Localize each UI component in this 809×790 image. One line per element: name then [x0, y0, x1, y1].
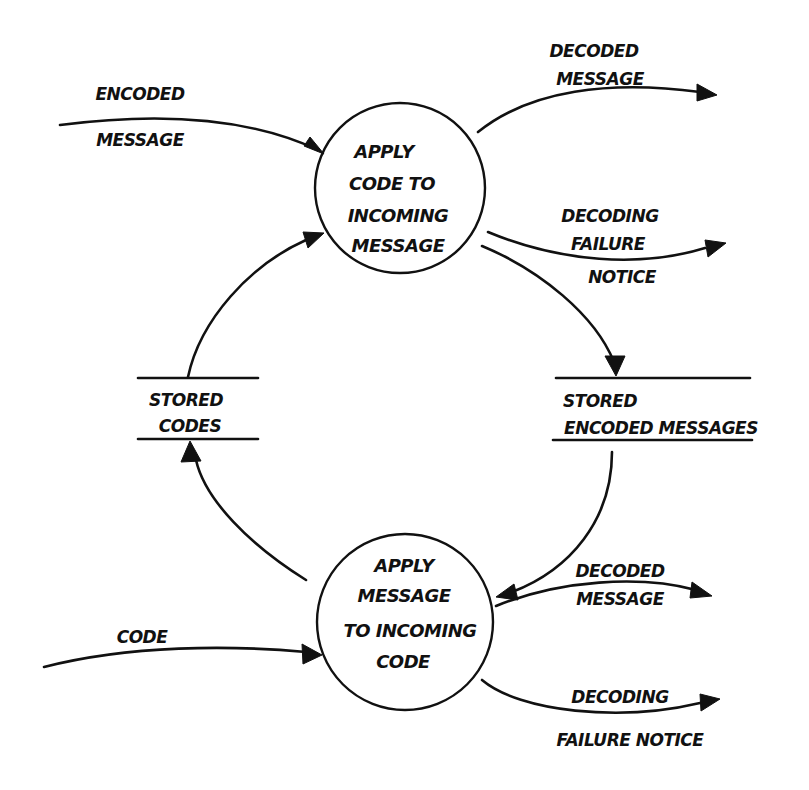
store-label-line: CODES — [159, 416, 222, 436]
flow-label-line: CODE — [117, 627, 169, 647]
flow-label-line: DECODED — [576, 561, 665, 581]
flow-p1-to-stored-encoded-messages — [482, 246, 625, 376]
flow-label-line: FAILURE — [571, 234, 646, 254]
flow-line — [44, 648, 306, 667]
arrowhead-icon — [302, 644, 322, 664]
flow-stored-codes-to-p1 — [188, 232, 324, 377]
flow-label-line: DECODING — [571, 687, 669, 707]
store-label-line: STORED — [563, 391, 637, 411]
arrowhead-icon — [690, 582, 712, 598]
process-label-line: CODE TO — [349, 173, 435, 194]
process-label-line: MESSAGE — [352, 235, 446, 256]
process-label-line: CODE — [376, 651, 431, 672]
arrowhead-icon — [700, 694, 720, 711]
process-label-line: APPLY — [352, 141, 416, 162]
store-stored-encoded-messages: STORED ENCODED MESSAGES — [553, 378, 758, 440]
store-label-line: ENCODED MESSAGES — [564, 418, 758, 438]
flow-p2-to-stored-codes — [181, 441, 306, 580]
flow-code: CODE — [44, 627, 322, 667]
flow-encoded-message: ENCODED MESSAGE — [60, 84, 324, 154]
flow-decoding-failure-notice-2: DECODING FAILURE NOTICE — [482, 680, 720, 750]
flow-label-line: FAILURE NOTICE — [557, 730, 705, 750]
arrowhead-icon — [605, 356, 625, 376]
process-apply-code-to-incoming-message: APPLY CODE TO INCOMING MESSAGE — [315, 103, 485, 273]
flow-decoded-message-1: DECODED MESSAGE — [478, 41, 717, 132]
flow-label-line: MESSAGE — [96, 130, 185, 150]
process-label-line: INCOMING — [348, 205, 449, 226]
process-label-line: TO INCOMING — [343, 620, 476, 641]
data-flow-diagram: APPLY CODE TO INCOMING MESSAGE APPLY MES… — [0, 0, 809, 790]
flow-line — [482, 246, 614, 362]
flow-line — [196, 460, 306, 580]
arrowhead-icon — [697, 84, 717, 101]
process-label-line: MESSAGE — [358, 585, 452, 606]
flow-label-line: NOTICE — [588, 267, 657, 287]
arrowhead-icon — [181, 441, 201, 462]
store-stored-codes: STORED CODES — [138, 378, 258, 439]
flow-label-line: MESSAGE — [576, 589, 665, 609]
arrowhead-icon — [496, 584, 518, 600]
flow-label-line: DECODING — [561, 206, 659, 226]
flow-line — [478, 87, 700, 132]
flow-decoding-failure-notice-1: DECODING FAILURE NOTICE — [488, 206, 726, 287]
flow-label-line: ENCODED — [95, 84, 184, 104]
store-label-line: STORED — [149, 390, 223, 410]
process-label-line: APPLY — [372, 555, 436, 576]
flow-line — [188, 240, 306, 377]
flow-label-line: DECODED — [550, 41, 639, 61]
arrowhead-icon — [304, 137, 324, 154]
arrowhead-icon — [705, 240, 726, 257]
flow-label-line: MESSAGE — [556, 69, 645, 89]
arrowhead-icon — [303, 232, 324, 248]
process-apply-message-to-incoming-code: APPLY MESSAGE TO INCOMING CODE — [317, 534, 493, 710]
